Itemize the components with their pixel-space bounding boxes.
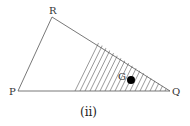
triangle-pqr [18, 17, 170, 91]
label-q: Q [172, 86, 180, 97]
point-g [127, 76, 135, 84]
label-g: G [118, 71, 126, 82]
label-p: P [9, 86, 16, 97]
caption: (ii) [80, 105, 97, 119]
label-r: R [49, 5, 57, 16]
triangle-diagram: R P Q G (ii) [0, 0, 190, 126]
